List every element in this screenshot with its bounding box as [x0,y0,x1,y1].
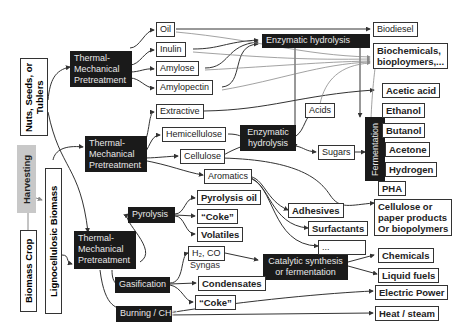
product-line: Biochemicals, [377,45,444,56]
product-line: Or biopolymers [378,223,448,234]
fermentation-label: Fermentation [370,122,380,175]
pretreatment-line: Pretreatment [78,255,132,266]
coke-pyrolysis-box: “Coke” [197,209,238,224]
pretreatment-line: Pretreatment [74,75,128,86]
heat-steam-box: Heat / steam [375,306,439,321]
product-line: Cellulose or [378,201,448,212]
condensates-box: Condensates [198,276,266,291]
gasification-box: Gasification [115,277,170,293]
aromatics-box: Aromatics [204,169,252,184]
enzymatic-hydrolysis-middle: Enzymatic hydrolysis [240,125,296,151]
catalytic-synthesis-box: Catalytic synthesis or fermentation [263,254,348,280]
biomass-conversion-diagram: Biomass Crop Harvesting Nuts, Seeds, or … [0,0,461,336]
harvesting-label: Harvesting [21,154,32,203]
pretreatment-middle: Thermal- Mechanical Pretreatment [85,136,147,172]
pretreatment-line: Mechanical [78,244,132,255]
hydrogen-box: Hydrogen [385,162,437,177]
inulin-box: Inulin [156,42,186,57]
process-line: Catalytic synthesis [267,256,344,267]
lignocellulosic-label: Lignocellulosic Biomass [48,185,59,296]
product-line: paper products [378,212,448,223]
process-line: hydrolysis [244,138,292,149]
syngas-box: H₂, CO [188,246,225,261]
volatiles-box: Volatiles [197,227,243,242]
nuts-seeds-box: Nuts, Seeds, or Tublers [20,58,48,136]
electric-power-box: Electric Power [375,285,448,300]
ethanol-box: Ethanol [382,103,425,118]
pretreatment-line: Mechanical [89,149,143,160]
oil-box: Oil [156,22,175,37]
surfactants-box: Surfactants [308,221,368,236]
pretreatment-bottom: Thermal- Mechanical Pretreatment [74,231,136,269]
chemicals-box: Chemicals [378,248,434,263]
liquid-fuels-box: Liquid fuels [378,268,439,283]
process-line: Enzymatic [244,127,292,138]
pyrolysis-box: Pyrolysis [128,207,175,223]
pretreatment-top: Thermal- Mechanical Pretreatment [70,51,132,87]
harvesting-label-box: Harvesting [17,145,36,213]
cellulose-products-box: Cellulose or paper products Or biopolyme… [374,199,452,236]
extractive-box: Extractive [156,104,204,119]
pretreatment-line: Thermal- [78,233,132,244]
process-line: or fermentation [267,267,344,278]
biomass-crop-box: Biomass Crop [20,230,37,312]
pha-box: PHA [378,181,406,196]
pretreatment-line: Thermal- [89,138,143,149]
product-line: bioploymers,... [377,56,444,67]
lignocellulosic-biomass-box: Lignocellulosic Biomass [45,168,62,314]
syngas-label: Syngas [190,260,220,270]
coke-gasification-box: “Coke” [195,295,236,310]
biomass-crop-label: Biomass Crop [23,239,34,303]
sugars-box: Sugars [318,145,355,160]
amylose-box: Amylose [156,61,199,76]
pyrolysis-oil-box: Pyrolysis oil [197,190,261,205]
pretreatment-line: Mechanical [74,64,128,75]
hemicellulose-box: Hemicellulose [162,127,226,142]
acids-box: Acids [305,103,335,118]
adhesives-box: Adhesives [288,203,344,218]
ellipsis-box: ... [318,240,366,255]
biodiesel-box: Biodiesel [373,22,418,37]
nuts-seeds-label: Nuts, Seeds, or Tublers [23,59,45,135]
pretreatment-line: Pretreatment [89,160,143,171]
cellulose-box: Cellulose [180,149,225,164]
acetone-box: Acetone [385,142,430,157]
pretreatment-line: Thermal- [74,53,128,64]
amylopectin-box: Amylopectin [156,80,213,95]
biochemicals-box: Biochemicals, bioploymers,... [373,43,448,69]
enzymatic-hydrolysis-top: Enzymatic hydrolysis [262,34,370,48]
butanol-box: Butanol [382,123,425,138]
acetic-acid-box: Acetic acid [382,83,440,98]
burning-chp-box: Burning / CHP [116,306,172,322]
